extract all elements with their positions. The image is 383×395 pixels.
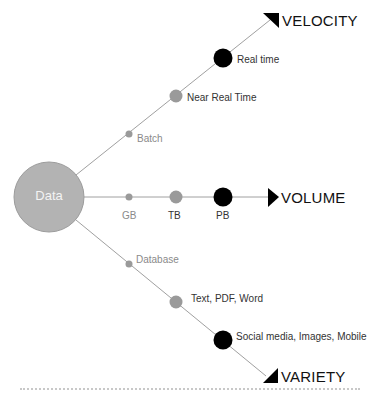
variety-point-social (214, 331, 233, 350)
volume-point-pb (214, 188, 233, 207)
caption-cutoff (20, 388, 360, 392)
velocity-point-near-real-time (170, 90, 183, 103)
velocity-point-real-time (214, 49, 233, 68)
label-batch: Batch (137, 133, 163, 145)
label-social-media: Social media, Images, Mobile (236, 331, 367, 343)
label-near-real-time: Near Real Time (187, 92, 256, 104)
label-text-pdf-word: Text, PDF, Word (191, 293, 263, 305)
velocity-point-batch (126, 131, 133, 138)
label-real-time: Real time (237, 54, 279, 66)
variety-point-database (126, 261, 133, 268)
axis-title-velocity: VELOCITY (282, 13, 358, 29)
label-database: Database (136, 254, 179, 266)
label-gb: GB (122, 210, 136, 222)
variety-point-text (170, 296, 183, 309)
axis-title-volume: VOLUME (281, 190, 346, 206)
label-tb: TB (168, 210, 181, 222)
volume-arrowhead-icon (268, 188, 279, 207)
axis-title-variety: VARIETY (281, 369, 345, 385)
volume-point-gb (126, 194, 133, 201)
velocity-arrowhead-icon (263, 13, 279, 28)
label-pb: PB (216, 210, 229, 222)
center-label: Data (14, 189, 84, 203)
volume-point-tb (170, 191, 183, 204)
